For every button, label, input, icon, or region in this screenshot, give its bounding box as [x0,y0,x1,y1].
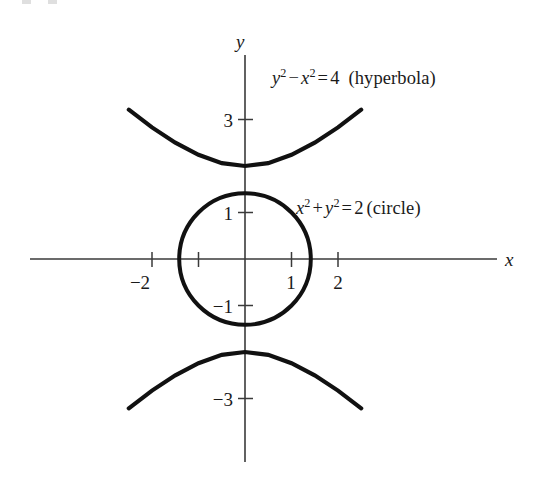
circle-exp-1: 2 [304,196,310,210]
hyperbola-exp-1: 2 [280,66,286,80]
x-tick-label-1: 1 [286,272,296,293]
y-tick-label-1: 1 [224,203,234,224]
hyperbola-exp-2: 2 [309,66,315,80]
circle-operator: + [311,198,326,218]
circle-equation-label: x2+y2=2(circle) [296,198,421,219]
y-tick-label--3: −3 [213,389,233,410]
hyperbola-equals: = [316,68,331,88]
y-tick-label-3: 3 [224,110,234,131]
y-axis-label: y [234,31,245,52]
hyperbola-equation-label: y2−x2=4(hyperbola) [272,68,436,89]
hyperbola-name: (hyperbola) [339,68,435,88]
x-tick-label--2: −2 [130,272,150,293]
x-tick-label-2: 2 [333,272,343,293]
circle-exp-2: 2 [333,196,339,210]
circle-equals: = [340,198,355,218]
circle-name: (circle) [363,198,420,218]
y-tick-label--1: −1 [213,296,233,317]
x-axis-label: x [504,249,514,270]
hyperbola-operator: − [287,68,302,88]
